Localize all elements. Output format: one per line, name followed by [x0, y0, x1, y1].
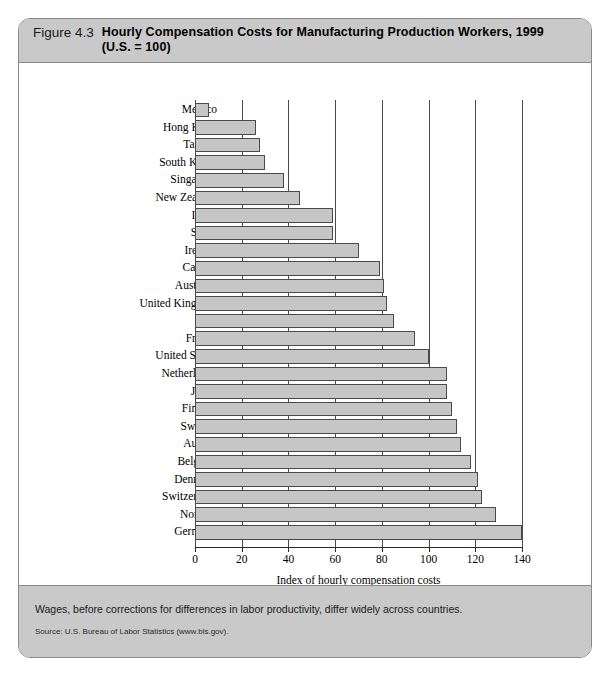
category-label: Israel [18, 208, 217, 223]
category-label: Norway [18, 507, 217, 522]
bar [195, 243, 359, 258]
category-label: Belgium [18, 454, 217, 469]
category-label: Spain [18, 225, 217, 240]
bar-row: Singapore [19, 172, 592, 190]
bar-row: United States [19, 348, 592, 366]
category-label: Australia [18, 278, 217, 293]
bar-row: Italy [19, 313, 592, 331]
bar [195, 367, 447, 382]
x-tick-label-80: 80 [376, 553, 388, 565]
category-label: Sweden [18, 419, 217, 434]
bar [195, 191, 300, 206]
figure-title-line2: (U.S. = 100) [102, 40, 544, 55]
bar [195, 296, 387, 311]
bar [195, 208, 333, 223]
bar [195, 349, 429, 364]
x-tick-140 [522, 547, 523, 552]
bar-row: Denmark [19, 472, 592, 490]
bar-row: Israel [19, 208, 592, 226]
category-label: Singapore [18, 172, 217, 187]
x-tick-label-0: 0 [192, 553, 198, 565]
category-label: New Zealand [18, 190, 217, 205]
bar [195, 226, 333, 241]
x-tick-20 [242, 547, 243, 552]
bar-row: Netherlands [19, 366, 592, 384]
figure-panel: Figure 4.3 Hourly Compensation Costs for… [18, 18, 592, 658]
x-tick-label-100: 100 [420, 553, 437, 565]
x-tick-label-40: 40 [283, 553, 295, 565]
bar [195, 525, 522, 540]
chart-plot-area: MexicoHong KongTaiwanSouth KoreaSingapor… [19, 63, 592, 586]
bar-row: Taiwan [19, 137, 592, 155]
bar [195, 402, 452, 417]
category-label: Germany [18, 524, 217, 539]
category-label: Finland [18, 401, 217, 416]
bar [195, 455, 471, 470]
bar [195, 331, 415, 346]
bar-row: New Zealand [19, 190, 592, 208]
bar [195, 155, 265, 170]
x-tick-40 [288, 547, 289, 552]
category-label: United Kingdom [18, 296, 217, 311]
x-tick-100 [429, 547, 430, 552]
bar-row: Austria [19, 436, 592, 454]
bar [195, 314, 394, 329]
bar-row: Spain [19, 225, 592, 243]
bar-row: South Korea [19, 155, 592, 173]
bar-row: Norway [19, 507, 592, 525]
bar [195, 279, 384, 294]
category-label: Canada [18, 260, 217, 275]
figure-header: Figure 4.3 Hourly Compensation Costs for… [19, 19, 591, 63]
category-label: Denmark [18, 472, 217, 487]
bar [195, 103, 209, 118]
bar-row: Japan [19, 384, 592, 402]
category-label: Switzerland [18, 489, 217, 504]
category-label: Japan [18, 384, 217, 399]
category-label: United States [18, 348, 217, 363]
bar-row: Australia [19, 278, 592, 296]
bar-row: Finland [19, 401, 592, 419]
bar-row: Hong Kong [19, 120, 592, 138]
bar [195, 472, 478, 487]
figure-title-line1: Hourly Compensation Costs for Manufactur… [102, 25, 544, 39]
bar-row: Sweden [19, 419, 592, 437]
figure-source: Source: U.S. Bureau of Labor Statistics … [35, 627, 575, 636]
bar [195, 173, 284, 188]
x-tick-120 [475, 547, 476, 552]
category-label: South Korea [18, 155, 217, 170]
category-label: Mexico [18, 102, 217, 117]
bar [195, 419, 457, 434]
bar-row: Canada [19, 260, 592, 278]
category-label: Ireland [18, 243, 217, 258]
figure-title: Hourly Compensation Costs for Manufactur… [102, 25, 544, 55]
bar-row: United Kingdom [19, 296, 592, 314]
x-tick-label-120: 120 [467, 553, 484, 565]
bar-row: Ireland [19, 243, 592, 261]
bar-row: Switzerland [19, 489, 592, 507]
bar [195, 507, 496, 522]
figure-caption: Wages, before corrections for difference… [35, 602, 575, 616]
bar [195, 261, 380, 276]
x-tick-label-20: 20 [236, 553, 248, 565]
category-label: France [18, 331, 217, 346]
bar [195, 138, 260, 153]
category-label: Taiwan [18, 137, 217, 152]
bar-row: Mexico [19, 102, 592, 120]
x-tick-label-140: 140 [513, 553, 530, 565]
x-axis-line [195, 547, 522, 548]
category-label: Netherlands [18, 366, 217, 381]
category-label: Austria [18, 436, 217, 451]
x-tick-label-60: 60 [329, 553, 341, 565]
category-label: Italy [18, 313, 217, 328]
x-tick-0 [195, 547, 196, 552]
bar-row: Germany [19, 524, 592, 542]
bar [195, 120, 256, 135]
bar-row: France [19, 331, 592, 349]
x-tick-80 [382, 547, 383, 552]
bar-row: Belgium [19, 454, 592, 472]
figure-footer: Wages, before corrections for difference… [19, 585, 591, 657]
bar [195, 437, 461, 452]
bar [195, 490, 482, 505]
figure-number: Figure 4.3 [33, 25, 102, 40]
x-tick-60 [335, 547, 336, 552]
